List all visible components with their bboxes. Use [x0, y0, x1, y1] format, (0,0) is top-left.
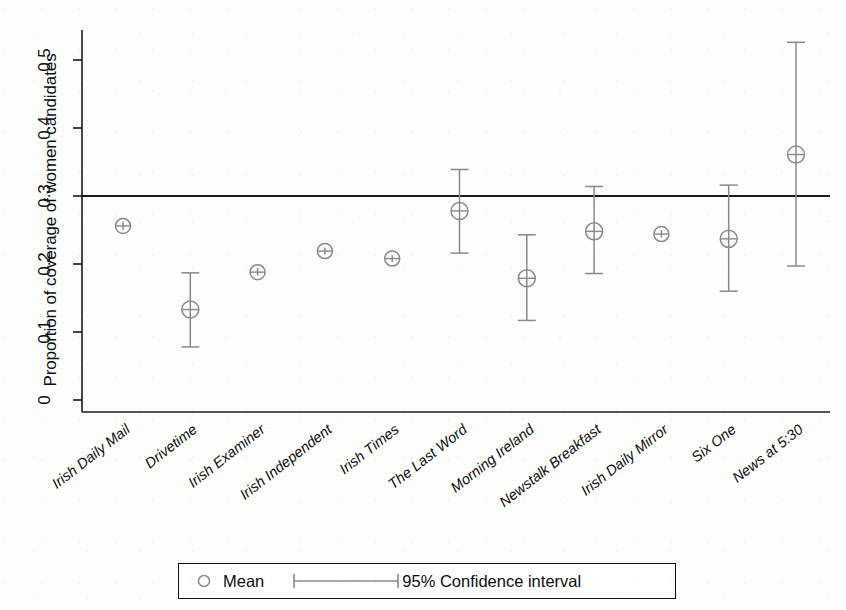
legend-circle-icon: [193, 570, 215, 592]
y-tick-label: 0: [34, 379, 56, 421]
data-point-group: [116, 218, 131, 233]
legend-capped-line-icon: [290, 570, 402, 592]
y-tick-label: 0.1: [34, 311, 56, 353]
y-tick-label: 0.2: [34, 243, 56, 285]
data-series-group: [116, 42, 806, 347]
legend-mean-marker-icon: [193, 570, 223, 592]
data-point-group: [250, 265, 265, 280]
data-point-group: [585, 186, 603, 273]
chart-legend: Mean 95% Confidence interval: [178, 563, 676, 599]
y-tick-label: 0.4: [34, 107, 56, 149]
y-axis-ticks: [73, 60, 82, 400]
legend-ci-marker-icon: [290, 570, 402, 592]
data-point-group: [720, 185, 738, 291]
data-point-group: [518, 235, 536, 321]
chart-figure: Proportion of coverage of women candidat…: [0, 0, 846, 610]
data-point-group: [451, 169, 469, 253]
legend-ci-label: 95% Confidence interval: [402, 572, 581, 591]
data-point-group: [181, 273, 199, 347]
legend-mean-label: Mean: [223, 572, 264, 591]
data-point-group: [317, 244, 332, 259]
y-tick-label: 0.5: [34, 39, 56, 81]
y-tick-label: 0.3: [34, 175, 56, 217]
data-point-group: [654, 227, 669, 242]
data-point-group: [787, 42, 805, 266]
data-point-group: [385, 251, 400, 266]
axis-spines: [82, 30, 830, 412]
